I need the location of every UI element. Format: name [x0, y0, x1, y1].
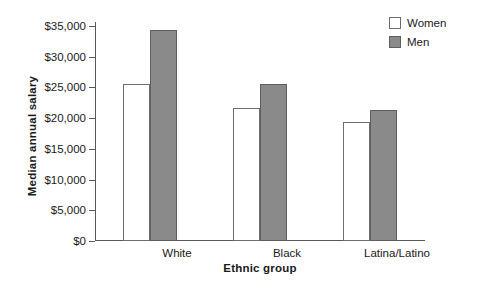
- legend-label: Men: [407, 36, 429, 48]
- bar-women-latina-latino[interactable]: [343, 122, 370, 241]
- y-axis-tick-mark: [89, 26, 95, 27]
- y-axis-tick-label: $35,000: [44, 20, 86, 32]
- bar-group: [343, 26, 397, 241]
- y-axis-tick-mark: [89, 87, 95, 88]
- chart-figure: Median annual salary $0$5,000$10,000$15,…: [0, 0, 477, 290]
- y-axis-tick-label: $15,000: [44, 143, 86, 155]
- bar-women-black[interactable]: [233, 108, 260, 241]
- y-axis-tick-label: $0: [73, 235, 86, 247]
- bar-men-latina-latino[interactable]: [370, 110, 397, 241]
- y-axis-tick-label: $20,000: [44, 112, 86, 124]
- y-axis-tick-mark: [89, 210, 95, 211]
- y-axis-line: [95, 22, 96, 241]
- y-axis-title: Median annual salary: [26, 41, 38, 231]
- bar-women-white[interactable]: [123, 84, 150, 241]
- legend-swatch-icon: [389, 36, 401, 48]
- y-axis-tick-mark: [89, 241, 95, 242]
- y-axis-tick-mark: [89, 180, 95, 181]
- bar-group: [123, 26, 177, 241]
- y-axis-tick-mark: [89, 149, 95, 150]
- chart-legend: WomenMen: [389, 14, 446, 52]
- x-axis-category-label: Latina/Latino: [327, 247, 467, 259]
- y-axis-tick-label: $5,000: [51, 204, 86, 216]
- y-axis-tick-mark: [89, 118, 95, 119]
- bar-men-white[interactable]: [150, 30, 177, 241]
- y-axis-tick-label: $30,000: [44, 51, 86, 63]
- y-axis-tick-label: $25,000: [44, 81, 86, 93]
- y-axis-tick-label: $10,000: [44, 174, 86, 186]
- legend-label: Women: [407, 17, 446, 29]
- y-axis-tick-mark: [89, 57, 95, 58]
- legend-entry-men[interactable]: Men: [389, 33, 446, 50]
- legend-swatch-icon: [389, 17, 401, 29]
- legend-entry-women[interactable]: Women: [389, 14, 446, 31]
- plot-area: $0$5,000$10,000$15,000$20,000$25,000$30,…: [95, 26, 425, 241]
- bar-group: [233, 26, 287, 241]
- bar-men-black[interactable]: [260, 84, 287, 241]
- x-axis-title: Ethnic group: [95, 262, 425, 274]
